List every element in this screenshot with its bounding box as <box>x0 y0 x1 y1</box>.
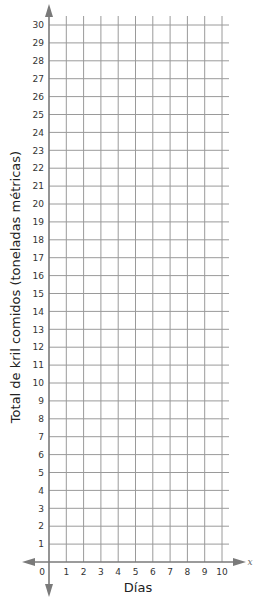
y-tick-label: 28 <box>33 56 45 66</box>
y-tick-label: 14 <box>33 307 45 317</box>
y-tick-label: 24 <box>33 128 45 138</box>
x-tick-labels: 12345678910 <box>63 567 228 577</box>
x-axis-title: Días <box>124 580 153 595</box>
y-tick-label: 26 <box>33 92 45 102</box>
y-tick-label: 2 <box>38 521 44 531</box>
x-tick-label: 4 <box>115 567 121 577</box>
y-tick-label: 23 <box>33 146 44 156</box>
y-tick-label: 22 <box>33 163 44 173</box>
y-tick-label: 20 <box>33 199 45 209</box>
y-tick-label: 13 <box>33 325 44 335</box>
y-axis-title: Total de kril comidos (toneladas métrica… <box>8 151 23 424</box>
x-tick-label: 7 <box>167 567 173 577</box>
y-tick-label: 21 <box>33 181 44 191</box>
y-tick-label: 8 <box>38 414 44 424</box>
y-tick-label: 29 <box>33 38 45 48</box>
x-tick-label: 10 <box>216 567 228 577</box>
coordinate-grid-chart: 1234567891011121314151617181920212223242… <box>0 0 255 611</box>
grid-lines <box>49 16 229 562</box>
x-tick-label: 8 <box>185 567 191 577</box>
y-tick-label: 16 <box>33 271 45 281</box>
y-tick-label: 5 <box>38 468 44 478</box>
y-tick-label: 12 <box>33 342 44 352</box>
x-variable-label: x <box>247 557 252 567</box>
y-tick-label: 25 <box>33 110 44 120</box>
y-tick-label: 17 <box>33 253 44 263</box>
x-tick-label: 1 <box>63 567 69 577</box>
y-tick-label: 18 <box>33 235 45 245</box>
x-tick-label: 5 <box>133 567 139 577</box>
y-tick-label: 30 <box>33 20 45 30</box>
y-tick-label: 3 <box>38 504 44 514</box>
x-tick-label: 6 <box>150 567 156 577</box>
x-tick-label: 2 <box>81 567 87 577</box>
x-axis-left-arrow-icon <box>22 558 35 566</box>
y-tick-label: 1 <box>38 539 44 549</box>
y-tick-label: 4 <box>38 486 44 496</box>
y-tick-label: 27 <box>33 74 44 84</box>
x-axis-right-arrow-icon <box>233 558 246 566</box>
y-tick-label: 11 <box>33 360 44 370</box>
y-tick-label: 7 <box>38 432 44 442</box>
y-axis-up-arrow-icon <box>45 4 53 17</box>
x-tick-label: 3 <box>98 567 104 577</box>
y-tick-label: 15 <box>33 289 44 299</box>
y-tick-label: 9 <box>38 396 44 406</box>
y-tick-labels: 1234567891011121314151617181920212223242… <box>33 20 45 549</box>
y-tick-label: 6 <box>38 450 44 460</box>
x-tick-label: 9 <box>202 567 208 577</box>
y-tick-label: 19 <box>33 217 45 227</box>
origin-label: 0 <box>39 567 45 577</box>
y-tick-label: 10 <box>33 378 45 388</box>
y-axis-down-arrow-icon <box>45 584 53 597</box>
